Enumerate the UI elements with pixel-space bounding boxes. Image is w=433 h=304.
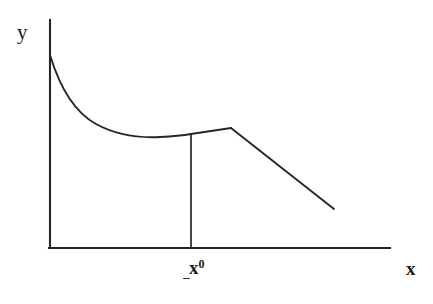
falling-tail-branch	[231, 128, 334, 209]
figure-canvas: y x _x0	[0, 0, 433, 304]
plot-svg	[0, 0, 433, 304]
x-axis-label: x	[406, 259, 416, 278]
convex-decay-branch	[50, 55, 191, 137]
y-axis-label: y	[17, 22, 28, 43]
rising-kink-branch	[191, 128, 231, 134]
x0-tick-label: _x0	[183, 258, 204, 279]
x0-superscript-glyph: 0	[198, 257, 204, 271]
